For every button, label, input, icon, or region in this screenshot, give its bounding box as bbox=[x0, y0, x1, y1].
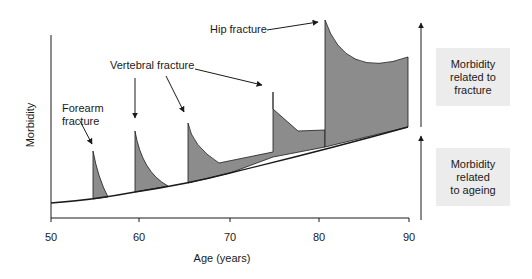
fracture-morbidity-areas bbox=[93, 20, 408, 199]
vertebral-arrow-2 bbox=[166, 76, 184, 112]
hip-fracture-area bbox=[325, 20, 408, 147]
x-axis-label: Age (years) bbox=[194, 252, 251, 264]
vertebral-fracture-area-1 bbox=[135, 131, 168, 192]
forearm-fracture-area bbox=[93, 151, 108, 199]
legend-ageing-line1: Morbidity bbox=[450, 158, 495, 171]
legend-ageing-morbidity: Morbidity related to ageing bbox=[436, 148, 510, 206]
vertebral-fracture-label: Vertebral fracture bbox=[110, 59, 194, 71]
chart-canvas: 50 60 70 80 90 Age (years) Morbidity For… bbox=[0, 0, 532, 279]
tick-label: 80 bbox=[313, 231, 325, 243]
forearm-fracture-label-line2: fracture bbox=[62, 115, 99, 127]
hip-arrow bbox=[267, 22, 318, 30]
legend-fracture-line2: related to bbox=[450, 71, 496, 84]
legend-ageing-line2: related bbox=[450, 171, 495, 184]
legend-fracture-line3: fracture bbox=[450, 84, 496, 97]
x-axis-ticks bbox=[51, 218, 409, 222]
x-axis-tick-labels: 50 60 70 80 90 bbox=[45, 231, 415, 243]
tick-label: 50 bbox=[45, 231, 57, 243]
legend-fracture-morbidity: Morbidity related to fracture bbox=[436, 48, 510, 106]
forearm-fracture-label-line1: Forearm bbox=[62, 102, 104, 114]
vertebral-arrow-3 bbox=[195, 69, 262, 85]
legend-fracture-line1: Morbidity bbox=[450, 58, 496, 71]
tick-label: 70 bbox=[224, 231, 236, 243]
y-axis-label: Morbidity bbox=[24, 102, 36, 147]
vertebral-fracture-area-2-3 bbox=[188, 92, 325, 183]
legend-ageing-line3: to ageing bbox=[450, 184, 495, 197]
tick-label: 90 bbox=[403, 231, 415, 243]
hip-fracture-label: Hip fracture bbox=[210, 23, 267, 35]
tick-label: 60 bbox=[133, 231, 145, 243]
